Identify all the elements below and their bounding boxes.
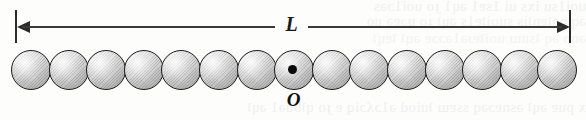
sphere-5: [199, 50, 239, 90]
length-label-L: L: [275, 14, 308, 34]
sphere-13: [500, 50, 540, 90]
physics-figure-rod-of-spheres: uoi1su ixs ui 1sɐ1 ǝɥ1 ɟo uoi1ɔǝs ǝq pǝʇ…: [0, 0, 586, 120]
sphere-12: [462, 50, 502, 90]
sphere-8: [312, 50, 352, 90]
pivot-label-O: O: [278, 90, 309, 109]
sphere-2: [86, 50, 126, 90]
sphere-1: [49, 50, 89, 90]
sphere-6: [237, 50, 277, 90]
sphere-0: [11, 50, 51, 90]
sphere-11: [425, 50, 465, 90]
pivot-dot-icon: [288, 65, 297, 74]
dimension-line-segment-right: [308, 26, 562, 28]
dimension-line-segment-left: [22, 26, 275, 28]
sphere-3: [124, 50, 164, 90]
sphere-10: [387, 50, 427, 90]
